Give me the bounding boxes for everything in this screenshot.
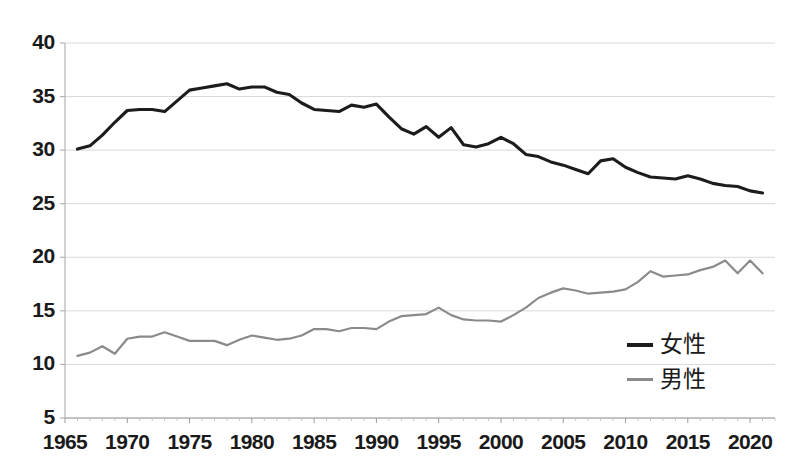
y-axis-tick-label: 5 xyxy=(0,405,55,429)
gridlines xyxy=(65,43,775,418)
y-axis-tick-label: 20 xyxy=(0,244,55,268)
legend-line-swatch-male xyxy=(627,378,653,381)
chart-plot-area xyxy=(0,0,789,473)
data-series xyxy=(77,84,762,356)
y-axis-tick-label: 30 xyxy=(0,137,55,161)
x-axis-tick-label: 2020 xyxy=(710,430,789,454)
chart-axes xyxy=(60,43,775,418)
legend-label-male: 男性 xyxy=(660,368,706,391)
line-chart: 403530252015105 196519701975198019851990… xyxy=(0,0,789,473)
y-axis-tick-label: 25 xyxy=(0,191,55,215)
y-axis-tick-label: 40 xyxy=(0,30,55,54)
series-line-female xyxy=(77,84,762,193)
legend-item-female: 女性 xyxy=(627,333,706,356)
legend-item-male: 男性 xyxy=(627,368,706,391)
y-axis-tick-label: 35 xyxy=(0,84,55,108)
y-axis-tick-label: 15 xyxy=(0,298,55,322)
legend-line-swatch-female xyxy=(627,343,653,347)
y-axis-tick-label: 10 xyxy=(0,351,55,375)
legend-label-female: 女性 xyxy=(660,333,706,356)
x-axis-tick-marks xyxy=(65,418,775,423)
